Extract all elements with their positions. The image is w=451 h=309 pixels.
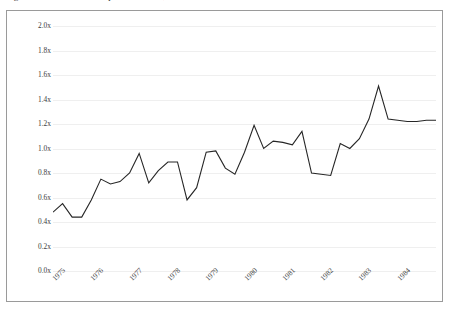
chart-frame: 2.0x1.8x1.6x1.4x1.2x1.0x0.8x0.6x0.4x0.2x… bbox=[6, 10, 443, 302]
y-axis-tick-label: 1.2x bbox=[38, 120, 51, 128]
x-axis-tick-label: 1978 bbox=[166, 267, 182, 283]
y-axis-tick-label: 1.6x bbox=[38, 71, 51, 79]
y-axis-tick-label: 1.0x bbox=[38, 145, 51, 153]
x-axis-tick-label: 1984 bbox=[396, 267, 412, 283]
y-axis-tick-label: 0.0x bbox=[38, 267, 51, 275]
x-axis-tick-label: 1976 bbox=[89, 267, 105, 283]
y-axis-tick-label: 0.4x bbox=[38, 218, 51, 226]
x-axis-tick-label: 1980 bbox=[243, 267, 259, 283]
y-axis-tick-label: 0.6x bbox=[38, 194, 51, 202]
figure-container: Figure: Ratio of annual output to baseli… bbox=[0, 0, 451, 309]
figure-title-clipped: Figure: Ratio of annual output to baseli… bbox=[0, 0, 451, 7]
y-axis-tick-label: 0.2x bbox=[38, 243, 51, 251]
y-axis-tick-label: 1.8x bbox=[38, 47, 51, 55]
plot-area: 2.0x1.8x1.6x1.4x1.2x1.0x0.8x0.6x0.4x0.2x… bbox=[7, 11, 444, 303]
x-axis-tick-label: 1982 bbox=[319, 267, 335, 283]
y-axis-labels: 2.0x1.8x1.6x1.4x1.2x1.0x0.8x0.6x0.4x0.2x… bbox=[15, 11, 51, 303]
x-axis-tick-label: 1977 bbox=[128, 267, 144, 283]
y-axis-tick-label: 2.0x bbox=[38, 22, 51, 30]
x-axis-tick-label: 1979 bbox=[204, 267, 220, 283]
y-axis-tick-label: 1.4x bbox=[38, 96, 51, 104]
x-axis-tick-label: 1975 bbox=[51, 267, 67, 283]
x-axis-labels: 1975197619771978197919801981198219831984 bbox=[53, 11, 436, 303]
x-axis-tick-label: 1981 bbox=[281, 267, 297, 283]
figure-title-text: Figure: Ratio of annual output to baseli… bbox=[6, 0, 210, 1]
x-axis-tick-label: 1983 bbox=[357, 267, 373, 283]
y-axis-tick-label: 0.8x bbox=[38, 169, 51, 177]
